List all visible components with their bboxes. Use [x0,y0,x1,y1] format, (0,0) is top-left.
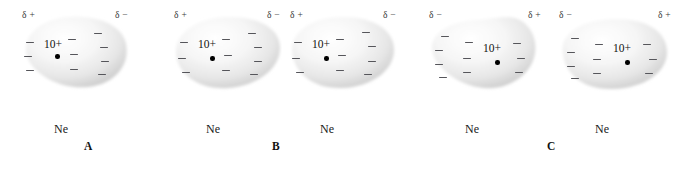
delta-charge-label-right: δ − [267,10,280,20]
nucleus-dot [210,56,215,61]
nucleus-dot [324,56,329,61]
element-symbol-label: Ne [206,122,220,137]
delta-charge-label-left: δ + [290,10,303,20]
atom-group: δ +δ −10+Ne [286,10,398,92]
electron-cloud [170,10,282,92]
element-symbol-label: Ne [320,122,334,137]
nucleus-dot [495,60,500,65]
panel-letter-label: C [547,140,555,152]
nucleus-dot [625,60,630,65]
nuclear-charge-label: 10+ [44,38,62,50]
element-symbol-label: Ne [465,122,479,137]
induced-dipole-diagram: δ +δ −10+NeAδ +δ −10+Neδ +δ −10+NeBδ −δ … [0,0,683,169]
nuclear-charge-label: 10+ [198,38,216,50]
atom-group: δ +δ −10+Ne [18,10,130,92]
nuclear-charge-label: 10+ [613,42,631,54]
delta-charge-label-right: δ − [115,10,128,20]
nucleus-dot [55,54,60,59]
electron-cloud [18,10,130,92]
delta-charge-label-right: δ − [383,10,396,20]
element-symbol-label: Ne [595,122,609,137]
delta-charge-label-left: δ + [22,10,35,20]
delta-charge-label-left: δ − [429,10,442,20]
panel-letter-label: A [84,140,92,152]
atom-group: δ −δ +10+Ne [555,10,673,92]
atom-group: δ +δ −10+Ne [170,10,282,92]
electron-cloud [286,10,398,92]
delta-charge-label-left: δ − [559,10,572,20]
delta-charge-label-left: δ + [174,10,187,20]
element-symbol-label: Ne [54,122,68,137]
nuclear-charge-label: 10+ [483,42,501,54]
atom-group: δ −δ +10+Ne [425,10,543,92]
delta-charge-label-right: δ + [528,10,541,20]
delta-charge-label-right: δ + [658,10,671,20]
nuclear-charge-label: 10+ [312,38,330,50]
panel-letter-label: B [272,140,280,152]
